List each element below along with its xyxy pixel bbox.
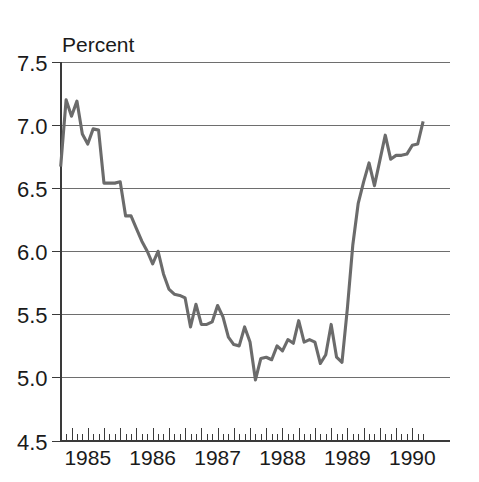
x-tick-label: 1988 bbox=[259, 446, 306, 469]
y-tick-label: 7.0 bbox=[17, 114, 48, 139]
y-tick-label: 5.0 bbox=[17, 366, 48, 391]
x-tick-label: 1990 bbox=[389, 446, 436, 469]
y-axis-title: Percent bbox=[62, 33, 135, 56]
x-tick-label: 1985 bbox=[64, 446, 111, 469]
x-tick-label: 1989 bbox=[324, 446, 371, 469]
x-tick-label: 1987 bbox=[194, 446, 241, 469]
x-tick-label: 1986 bbox=[129, 446, 176, 469]
y-tick-label: 6.0 bbox=[17, 240, 48, 265]
y-tick-label: 5.5 bbox=[17, 303, 48, 328]
y-tick-label: 4.5 bbox=[17, 430, 48, 455]
chart-background bbox=[0, 0, 479, 482]
y-tick-label: 6.5 bbox=[17, 177, 48, 202]
chart-container: Percent 7.57.06.56.05.55.04.5 1985198619… bbox=[0, 0, 479, 482]
y-tick-label: 7.5 bbox=[17, 51, 48, 76]
line-chart: Percent 7.57.06.56.05.55.04.5 1985198619… bbox=[0, 0, 479, 482]
